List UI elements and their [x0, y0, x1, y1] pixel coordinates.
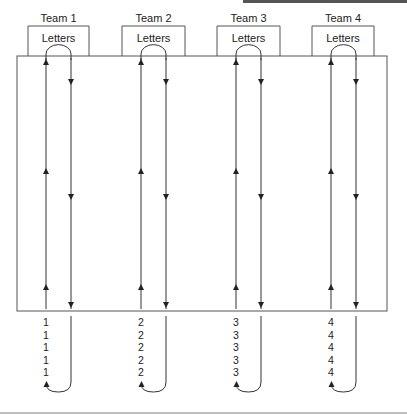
down-arrow-icon — [68, 79, 74, 85]
down-arrow-icon — [258, 79, 264, 85]
relay-diagram: Team 1Letters11111Team 2Letters22222Team… — [0, 0, 407, 415]
runner-number: 4 — [328, 354, 334, 366]
down-arrow-icon — [163, 79, 169, 85]
down-arrow-icon — [258, 302, 264, 308]
up-arrow-icon — [138, 168, 144, 174]
letters-label: Letters — [137, 32, 171, 44]
up-arrow-icon — [43, 168, 49, 174]
runner-number: 4 — [328, 329, 334, 341]
runner-number: 3 — [233, 354, 239, 366]
turnaround-arc — [141, 45, 166, 60]
up-arrow-icon — [328, 284, 334, 290]
team-label: Team 3 — [230, 12, 266, 24]
up-arrow-icon — [328, 59, 334, 65]
down-arrow-icon — [68, 302, 74, 308]
up-arrow-icon — [43, 59, 49, 65]
queue-loop — [46, 316, 71, 392]
runner-number: 4 — [328, 341, 334, 353]
turnaround-arc — [331, 45, 356, 60]
letters-label: Letters — [326, 32, 360, 44]
team-2-column: Team 2Letters22222 — [122, 12, 185, 392]
loop-arrow-icon — [44, 381, 50, 387]
turnaround-arc — [236, 45, 261, 60]
runner-number: 4 — [328, 366, 334, 378]
runner-number: 3 — [233, 366, 239, 378]
up-arrow-icon — [233, 168, 239, 174]
runner-number: 1 — [43, 329, 49, 341]
runner-number: 2 — [138, 354, 144, 366]
runner-number: 1 — [43, 354, 49, 366]
queue-loop — [331, 316, 356, 392]
runner-number: 4 — [328, 316, 334, 328]
down-arrow-icon — [353, 79, 359, 85]
team-1-column: Team 1Letters11111 — [28, 12, 89, 392]
runner-number: 2 — [138, 316, 144, 328]
down-arrow-icon — [68, 194, 74, 200]
runner-number: 3 — [233, 341, 239, 353]
queue-loop — [141, 316, 166, 392]
top-edge-bar — [243, 0, 407, 3]
team-3-column: Team 3Letters33333 — [217, 12, 280, 392]
team-label: Team 1 — [40, 12, 76, 24]
runner-number: 1 — [43, 316, 49, 328]
down-arrow-icon — [163, 302, 169, 308]
down-arrow-icon — [353, 194, 359, 200]
up-arrow-icon — [138, 284, 144, 290]
runner-number: 1 — [43, 366, 49, 378]
letters-label: Letters — [42, 32, 76, 44]
team-label: Team 4 — [325, 12, 361, 24]
up-arrow-icon — [43, 284, 49, 290]
letters-label: Letters — [232, 32, 266, 44]
up-arrow-icon — [138, 59, 144, 65]
turnaround-arc — [46, 45, 71, 60]
queue-loop — [236, 316, 261, 392]
up-arrow-icon — [328, 168, 334, 174]
loop-arrow-icon — [329, 381, 335, 387]
runner-number: 2 — [138, 366, 144, 378]
down-arrow-icon — [163, 194, 169, 200]
runner-number: 1 — [43, 341, 49, 353]
down-arrow-icon — [353, 302, 359, 308]
team-label: Team 2 — [135, 12, 171, 24]
loop-arrow-icon — [234, 381, 240, 387]
runner-number: 3 — [233, 316, 239, 328]
runner-number: 3 — [233, 329, 239, 341]
team-4-column: Team 4Letters44444 — [312, 12, 374, 392]
down-arrow-icon — [258, 194, 264, 200]
runner-number: 2 — [138, 329, 144, 341]
up-arrow-icon — [233, 59, 239, 65]
up-arrow-icon — [233, 284, 239, 290]
runner-number: 2 — [138, 341, 144, 353]
loop-arrow-icon — [139, 381, 145, 387]
